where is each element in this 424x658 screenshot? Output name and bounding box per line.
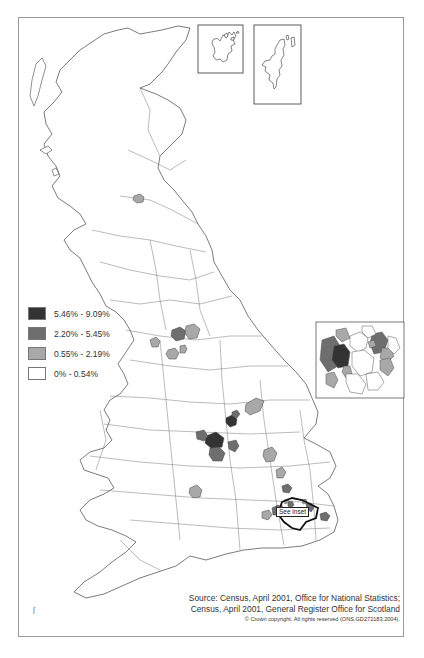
legend-swatch (28, 307, 46, 320)
legend-item-class-1: 5.46% - 9.09% (28, 306, 128, 321)
london-inset (316, 322, 404, 398)
source-line-2: Census, April 2001, General Register Off… (189, 604, 400, 615)
orkney-inset (198, 25, 243, 73)
copyright-note: © Crown copyright. All rights reserved (… (189, 615, 400, 624)
legend-swatch (28, 327, 46, 340)
legend-label: 2.20% - 5.45% (54, 329, 110, 339)
shetland-inset (254, 25, 301, 104)
map-mark: ʃ (33, 606, 35, 614)
legend-swatch (28, 367, 46, 380)
see-inset-label: See inset (276, 507, 309, 517)
legend-swatch (28, 347, 46, 360)
legend-label: 0% - 0.54% (54, 369, 98, 379)
legend-label: 5.46% - 9.09% (54, 309, 110, 319)
source-line-1: Source: Census, April 2001, Office for N… (189, 593, 400, 604)
legend-item-class-2: 2.20% - 5.45% (28, 326, 128, 341)
legend-item-class-4: 0% - 0.54% (28, 366, 128, 381)
legend-label: 0.55% - 2.19% (54, 349, 110, 359)
map-legend: 5.46% - 9.09% 2.20% - 5.45% 0.55% - 2.19… (28, 306, 128, 386)
source-note: Source: Census, April 2001, Office for N… (189, 593, 400, 624)
legend-item-class-3: 0.55% - 2.19% (28, 346, 128, 361)
